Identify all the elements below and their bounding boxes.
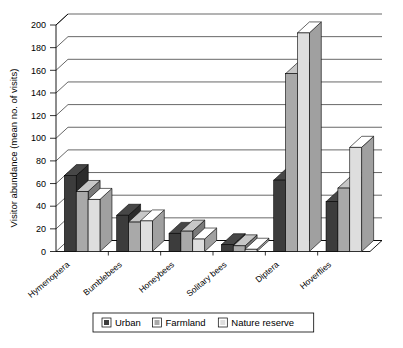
- bar-front-face: [129, 222, 141, 251]
- x-category-label: Bumblebees: [81, 259, 124, 297]
- bar-side-face: [309, 22, 321, 252]
- bar-front-face: [338, 188, 350, 251]
- bar-front-face: [88, 199, 100, 251]
- bar-series-group: [64, 22, 373, 256]
- chart-legend: UrbanFarmlandNature reserve: [93, 313, 314, 332]
- gridline: [56, 82, 382, 93]
- bar-front-face: [76, 191, 88, 251]
- bar: [88, 188, 112, 251]
- x-category-label: Diptera: [253, 259, 281, 284]
- bar-front-face: [286, 74, 298, 252]
- gridline: [56, 37, 382, 48]
- legend-label: Nature reserve: [231, 317, 294, 328]
- legend-label: Urban: [115, 317, 141, 328]
- bar-front-face: [297, 33, 309, 252]
- bar-front-face: [274, 180, 286, 251]
- x-category-label: Honeybees: [137, 259, 176, 294]
- y-tick-label: 120: [31, 111, 46, 121]
- legend-swatch-fill: [155, 320, 160, 325]
- y-axis-title: Visitor abundance (mean no. of visits): [8, 69, 19, 228]
- gridline: [56, 150, 382, 161]
- legend-swatch-fill: [104, 320, 109, 325]
- bar-front-face: [117, 215, 129, 251]
- x-axis-category-labels: HymenopteraBumblebeesHoneybeesSolitary b…: [26, 259, 333, 300]
- y-tick-label: 160: [31, 66, 46, 76]
- y-tick-label: 200: [31, 20, 46, 30]
- y-tick-label: 60: [36, 179, 46, 189]
- bar: [350, 136, 374, 251]
- x-category-label: Hymenoptera: [26, 259, 72, 300]
- bar-front-face: [181, 231, 193, 251]
- gridline: [56, 173, 382, 184]
- x-category-label: Solitary bees: [184, 259, 228, 298]
- bar-front-face: [350, 147, 362, 251]
- y-tick-label: 20: [36, 224, 46, 234]
- bar-chart: Visitor abundance (mean no. of visits) 0…: [0, 0, 403, 348]
- legend-item[interactable]: Farmland: [153, 317, 206, 328]
- legend-label: Farmland: [166, 317, 206, 328]
- y-tick-label: 80: [36, 156, 46, 166]
- y-tick-label: 180: [31, 43, 46, 53]
- bar-front-face: [193, 239, 205, 251]
- bar-front-face: [169, 233, 181, 251]
- gridline: [56, 14, 382, 25]
- chart-canvas: Visitor abundance (mean no. of visits) 0…: [0, 0, 403, 348]
- bar-front-face: [233, 246, 245, 252]
- bar: [297, 22, 321, 252]
- y-tick-label: 0: [41, 247, 46, 257]
- y-axis-ticks: 020406080100120140160180200: [31, 20, 56, 257]
- gridline: [56, 105, 382, 116]
- y-tick-label: 40: [36, 201, 46, 211]
- y-tick-label: 100: [31, 133, 46, 143]
- legend-item[interactable]: Urban: [102, 317, 141, 328]
- y-axis-title-text: Visitor abundance (mean no. of visits): [8, 69, 19, 228]
- bar-front-face: [64, 176, 76, 252]
- legend-swatch-fill: [220, 320, 225, 325]
- wall-top-depth-edge: [56, 14, 68, 25]
- bar-front-face: [140, 221, 152, 252]
- bar-front-face: [221, 245, 233, 252]
- y-tick-label: 140: [31, 88, 46, 98]
- bar-side-face: [362, 136, 374, 251]
- gridline: [56, 127, 382, 138]
- bar-front-face: [245, 249, 257, 251]
- gridline: [56, 59, 382, 70]
- x-category-label: Hoverflies: [298, 259, 333, 291]
- bar-front-face: [326, 202, 338, 252]
